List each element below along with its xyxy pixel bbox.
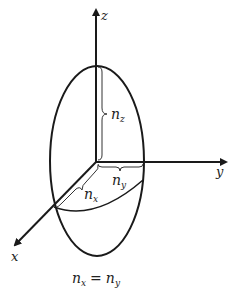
caption-equation: nx=ny [72, 270, 121, 288]
nz-label: nz [111, 106, 125, 124]
ny-label: ny [112, 172, 127, 190]
brace-ny [98, 164, 143, 171]
equator-curve [54, 180, 143, 211]
nx-label: nx [84, 186, 98, 204]
x-axis [15, 162, 96, 245]
ellipsoid-diagram: z y x nz ny nx nx=ny [0, 0, 231, 295]
y-axis-label: y [215, 164, 224, 179]
brace-nz [98, 67, 107, 160]
x-axis-label: x [11, 249, 19, 264]
z-axis-label: z [100, 8, 108, 23]
